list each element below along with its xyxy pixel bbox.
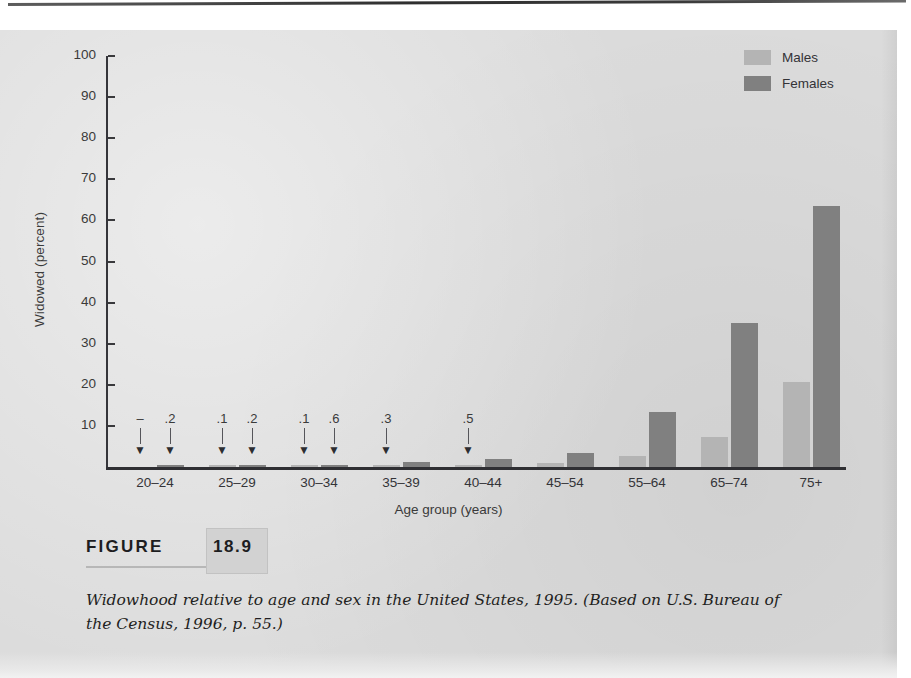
value-pointer-arrow-icon: ▼ (239, 444, 265, 456)
y-tick-label: 40 (62, 294, 96, 309)
x-tick-label: 35–39 (363, 475, 439, 490)
bar-value-label: .5 (455, 411, 481, 426)
bar-females-75+ (813, 206, 840, 467)
plot-area (108, 56, 846, 467)
value-pointer-arrow-icon: ▼ (455, 444, 481, 456)
value-pointer-arrow-icon: ▼ (127, 444, 153, 456)
legend-label: Females (782, 76, 834, 91)
value-pointer-arrow-icon: ▼ (291, 444, 317, 456)
legend-label: Males (782, 50, 818, 65)
x-tick-label: 40–44 (445, 475, 521, 490)
bar-value-label: .1 (209, 411, 235, 426)
bar-chart: Widowed (percent) 102030405060708090100 … (0, 30, 897, 520)
y-tick-label: 60 (62, 211, 96, 226)
y-tick-label: 80 (62, 129, 96, 144)
legend-swatch (744, 50, 771, 65)
bar-males-45–54 (537, 463, 564, 467)
value-pointer-stem (386, 428, 387, 444)
y-tick-label: 90 (62, 88, 96, 103)
x-axis-title: Age group (years) (0, 502, 897, 517)
bar-males-40–44 (455, 465, 482, 467)
bar-females-40–44 (485, 459, 512, 467)
x-axis-line (106, 467, 846, 470)
y-tick-label: 70 (62, 170, 96, 185)
bar-females-45–54 (567, 453, 594, 467)
bar-females-35–39 (403, 462, 430, 467)
value-pointer-stem (252, 428, 253, 444)
bar-males-35–39 (373, 465, 400, 467)
page-bottom-fade (0, 652, 897, 678)
bar-value-label: .3 (373, 411, 399, 426)
y-tick-label: 100 (62, 47, 96, 62)
figure-tag: FIGURE 18.9 (86, 528, 876, 574)
x-tick-label: 75+ (773, 475, 849, 490)
bar-value-label: .2 (239, 411, 265, 426)
y-tick-label: 10 (62, 417, 96, 432)
bar-females-65–74 (731, 323, 758, 467)
y-tick-label: 50 (62, 253, 96, 268)
x-tick-label: 55–64 (609, 475, 685, 490)
bar-males-25–29 (209, 465, 236, 467)
chart-legend: MalesFemales (744, 50, 834, 102)
x-tick-label: 25–29 (199, 475, 275, 490)
value-pointer-stem (170, 428, 171, 444)
value-pointer-arrow-icon: ▼ (373, 444, 399, 456)
value-pointer-stem (222, 428, 223, 444)
figure-caption: Widowhood relative to age and sex in the… (86, 588, 786, 636)
bar-females-55–64 (649, 412, 676, 467)
bar-value-label: .1 (291, 411, 317, 426)
value-pointer-arrow-icon: ▼ (321, 444, 347, 456)
bar-males-30–34 (291, 465, 318, 467)
figure-underline (86, 566, 206, 568)
page-top-rule (8, 0, 906, 6)
legend-item-males: Males (744, 50, 834, 65)
y-axis-title: Widowed (percent) (32, 155, 47, 385)
x-tick-label: 65–74 (691, 475, 767, 490)
bar-males-75+ (783, 382, 810, 467)
y-tick-label: 30 (62, 335, 96, 350)
y-tick-label: 20 (62, 376, 96, 391)
legend-swatch (744, 76, 771, 91)
bar-value-label: – (127, 411, 153, 426)
figure-number: 18.9 (213, 537, 253, 557)
x-tick-label: 45–54 (527, 475, 603, 490)
bar-value-label: .2 (157, 411, 183, 426)
bar-females-30–34 (321, 465, 348, 467)
bar-females-20–24 (157, 465, 184, 467)
value-pointer-stem (334, 428, 335, 444)
bar-males-65–74 (701, 437, 728, 467)
bar-females-25–29 (239, 465, 266, 467)
value-pointer-stem (140, 428, 141, 444)
value-pointer-arrow-icon: ▼ (209, 444, 235, 456)
x-tick-label: 30–34 (281, 475, 357, 490)
legend-item-females: Females (744, 76, 834, 91)
value-pointer-arrow-icon: ▼ (157, 444, 183, 456)
bar-males-55–64 (619, 456, 646, 467)
figure-block: FIGURE 18.9 Widowhood relative to age an… (86, 528, 876, 636)
bar-value-label: .6 (321, 411, 347, 426)
value-pointer-stem (304, 428, 305, 444)
figure-word: FIGURE (86, 537, 163, 557)
x-tick-label: 20–24 (117, 475, 193, 490)
value-pointer-stem (468, 428, 469, 444)
